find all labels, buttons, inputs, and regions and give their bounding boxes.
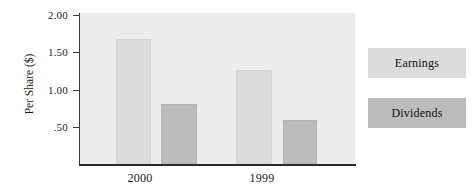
bar-2000-dividends [161,104,197,164]
y-axis-title: Per Share ($) [23,29,35,139]
bars-layer [80,13,355,164]
legend-label-earnings: Earnings [395,57,439,70]
y-tick-label-200: 2.00 [48,10,68,21]
plot-area [80,13,355,165]
x-axis-line [79,164,356,166]
y-axis-line [79,13,80,165]
y-tick-mark-150 [73,52,80,53]
y-tick-label-150: 1.50 [48,47,68,58]
y-tick-mark-100 [73,90,80,91]
x-tick-label-1999: 1999 [217,172,307,185]
y-tick-mark-050 [73,127,80,128]
bar-1999-earnings [236,70,272,164]
legend-entry-dividends: Dividends [368,98,466,128]
legend-label-dividends: Dividends [391,107,442,120]
bar-chart-figure: 2.00 1.50 1.00 .50 Per Share ($) 2000 19… [0,0,474,196]
legend-entry-earnings: Earnings [368,48,466,78]
bar-1999-dividends [283,120,317,164]
x-tick-label-2000: 2000 [95,172,185,185]
y-tick-label-100: 1.00 [48,85,68,96]
bar-2000-earnings [116,39,151,164]
y-tick-mark-200 [73,15,80,16]
y-tick-label-050: .50 [54,122,68,133]
